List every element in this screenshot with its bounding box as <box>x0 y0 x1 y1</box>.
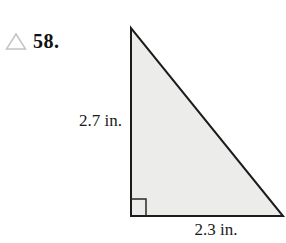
figure-canvas: 58. 2.7 in. 2.3 in. <box>0 0 286 243</box>
bottom-side-label: 2.3 in. <box>178 220 254 240</box>
left-side-label: 2.7 in. <box>58 111 122 131</box>
right-triangle-figure <box>0 0 286 243</box>
triangle-shape <box>131 28 283 216</box>
